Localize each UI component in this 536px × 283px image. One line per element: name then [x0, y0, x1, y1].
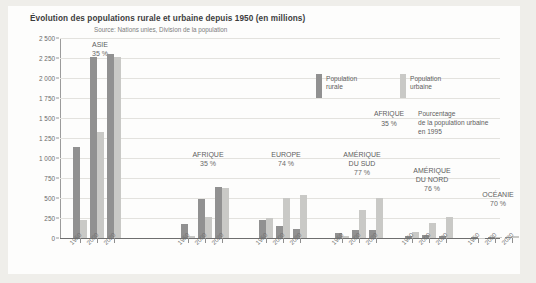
y-tick-label: 1 500	[39, 115, 55, 122]
bar-rural	[73, 147, 80, 238]
x-tick-mark	[283, 238, 284, 243]
x-tick-group: 195020002020	[468, 238, 528, 268]
x-tick-mark	[97, 238, 98, 243]
group-percent: 35 %	[200, 160, 216, 167]
group-percent: 77 %	[354, 169, 370, 176]
y-tick-label: 1 000	[39, 155, 55, 162]
annotation-description-line: Pourcentage	[418, 110, 455, 117]
chart-source: Source: Nations unies, Division de la po…	[94, 26, 227, 33]
y-tick-mark	[56, 238, 59, 239]
x-tick-mark	[512, 238, 513, 243]
group-percent: 35 %	[92, 50, 108, 57]
y-tick-mark	[56, 198, 59, 199]
bar-urbaine	[283, 198, 290, 238]
bar-group: OCÉANIE70 %195020002020	[468, 38, 528, 238]
x-tick-group: 195020002020	[256, 238, 316, 268]
x-tick-mark	[478, 238, 479, 243]
bar-urbaine	[97, 132, 104, 238]
group-label: OCÉANIE70 %	[482, 190, 514, 208]
chart-title: Évolution des populations rurale et urba…	[30, 14, 305, 23]
group-label: ASIE35 %	[92, 40, 108, 58]
x-tick-mark	[342, 238, 343, 243]
annotation-description: Pourcentagede la population urbaineen 19…	[418, 109, 488, 137]
bar-urbaine	[300, 195, 307, 238]
y-tick-label: 2 250	[39, 55, 55, 62]
group-label-line: AMÉRIQUE	[343, 151, 380, 158]
x-tick-mark	[412, 238, 413, 243]
bar-group: AMÉRIQUEDU NORD76 %195020002020	[402, 38, 462, 238]
group-label-line: DU NORD	[416, 176, 449, 183]
group-label-line: DU SUD	[349, 160, 376, 167]
x-tick-mark	[222, 238, 223, 243]
y-tick-label: 0	[51, 235, 55, 242]
y-tick-mark	[56, 58, 59, 59]
group-label-line: EUROPE	[271, 151, 301, 158]
group-percent: 74 %	[278, 160, 294, 167]
group-percent: 70 %	[490, 200, 506, 207]
bar-rural	[107, 54, 114, 238]
x-tick-mark	[266, 238, 267, 243]
legend-label-rural: Populationrurale	[326, 75, 357, 92]
bar-urbaine	[222, 188, 229, 238]
x-tick-mark	[205, 238, 206, 243]
group-label: EUROPE74 %	[271, 150, 301, 168]
x-tick-mark	[80, 238, 81, 243]
y-tick-label: 2 000	[39, 75, 55, 82]
bar-rural	[90, 57, 97, 238]
annotation-description-line: de la population urbaine	[418, 119, 488, 126]
y-tick-mark	[56, 138, 59, 139]
y-tick-mark	[56, 38, 59, 39]
y-tick-mark	[56, 158, 59, 159]
y-tick-label: 1 250	[39, 135, 55, 142]
x-tick-group: 195020002020	[332, 238, 392, 268]
x-tick-group: 195020002020	[70, 238, 130, 268]
group-label-line: AMÉRIQUE	[413, 167, 450, 174]
y-tick-label: 250	[44, 215, 55, 222]
annotation-key: AFRIQUE 35 %	[366, 109, 412, 128]
group-label: AMÉRIQUEDU SUD77 %	[343, 150, 380, 177]
bar-group: AFRIQUE35 %195020002020	[178, 38, 238, 238]
plot-area: 2 5002 2502 0001 7501 5001 2501 00075050…	[60, 38, 500, 238]
y-tick-mark	[56, 78, 59, 79]
x-tick-mark	[359, 238, 360, 243]
x-tick-mark	[376, 238, 377, 243]
legend-label-urbaine: Populationurbaine	[410, 75, 441, 92]
y-tick-label: 1 750	[39, 95, 55, 102]
group-label-line: ASIE	[92, 41, 108, 48]
annotation-description-line: en 1995	[418, 128, 442, 135]
bar-urbaine	[376, 198, 383, 238]
x-tick-mark	[300, 238, 301, 243]
bar-group: AMÉRIQUEDU SUD77 %195020002020	[332, 38, 392, 238]
y-tick-mark	[56, 178, 59, 179]
x-tick-mark	[188, 238, 189, 243]
y-tick-label: 2 500	[39, 35, 55, 42]
x-tick-mark	[429, 238, 430, 243]
group-label: AFRIQUE35 %	[192, 150, 223, 168]
x-tick-group: 195020002020	[402, 238, 462, 268]
y-tick-mark	[56, 118, 59, 119]
x-tick-group: 195020002020	[178, 238, 238, 268]
y-tick-mark	[56, 98, 59, 99]
group-label-line: AFRIQUE	[192, 151, 223, 158]
bar-group: EUROPE74 %195020002020	[256, 38, 316, 238]
group-label-line: OCÉANIE	[482, 191, 514, 198]
annotation-region: AFRIQUE	[374, 110, 404, 117]
legend-swatch-rural	[316, 74, 322, 98]
y-tick-label: 500	[44, 195, 55, 202]
bar-urbaine	[114, 57, 121, 238]
bar-group: ASIE35 %195020002020	[70, 38, 130, 238]
x-tick-mark	[446, 238, 447, 243]
y-tick-label: 750	[44, 175, 55, 182]
group-percent: 76 %	[424, 185, 440, 192]
x-tick-mark	[495, 238, 496, 243]
legend-swatch-urbaine	[400, 74, 406, 98]
annotation-percent: 35 %	[381, 120, 397, 127]
group-label: AMÉRIQUEDU NORD76 %	[413, 166, 450, 193]
y-tick-mark	[56, 218, 59, 219]
chart-card: Évolution des populations rurale et urba…	[8, 6, 520, 274]
x-tick-mark	[114, 238, 115, 243]
